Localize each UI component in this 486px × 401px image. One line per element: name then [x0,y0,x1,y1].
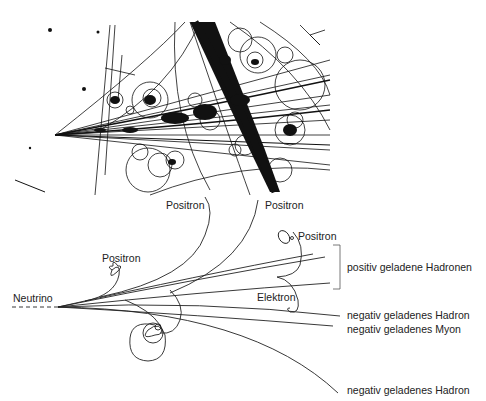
neg-hadron-track-2 [58,307,338,393]
neg-hadron-track-1 [58,305,340,316]
spiral-track [125,300,165,361]
track-diagram [0,0,486,401]
label-positron-3: Positron [265,199,304,211]
label-electron: Elektron [257,291,296,303]
neg-muon-track [58,307,333,326]
hadron-bracket [333,245,340,289]
label-positive-hadrons: positiv geladene Hadronen [347,261,472,273]
label-positron-1: Positron [102,252,141,264]
label-positron-2: Positron [166,199,205,211]
positron-track-3 [170,200,258,293]
label-positron-4: Positron [298,230,337,242]
label-negative-muon: negativ geladenes Myon [347,323,461,335]
label-negative-hadron-2: negativ geladenes Hadron [347,384,470,396]
label-negative-hadron-1: negativ geladenes Hadron [347,309,470,321]
label-neutrino: Neutrino [13,292,53,304]
